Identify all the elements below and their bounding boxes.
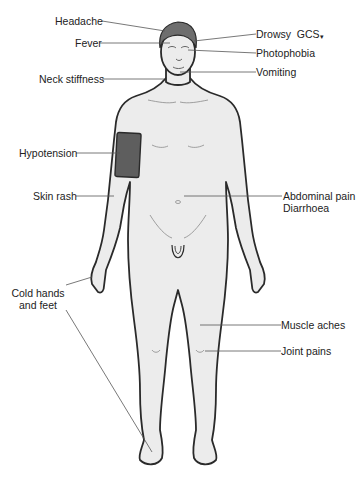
human-body-outline bbox=[91, 29, 265, 464]
blood-pressure-cuff bbox=[115, 132, 141, 177]
label-cold-hands-line1: Cold hands bbox=[10, 287, 66, 299]
label-fever: Fever bbox=[75, 37, 102, 49]
label-headache: Headache bbox=[55, 15, 103, 27]
label-drowsy: Drowsy bbox=[256, 28, 291, 40]
label-photophobia: Photophobia bbox=[256, 47, 315, 59]
label-gcs: GCS bbox=[297, 28, 320, 40]
label-skin-rash: Skin rash bbox=[33, 190, 77, 202]
label-muscle-aches: Muscle aches bbox=[281, 319, 345, 331]
label-cold-hands-line2: and feet bbox=[10, 299, 66, 311]
label-abdominal-pain: Abdominal pain bbox=[283, 190, 355, 202]
label-vomiting: Vomiting bbox=[256, 66, 296, 78]
label-abdominal-pain-diarrhoea: Abdominal pain Diarrhoea bbox=[283, 190, 355, 214]
down-arrow-icon: ▾ bbox=[320, 33, 324, 40]
label-cold-hands-and-feet: Cold hands and feet bbox=[10, 287, 66, 311]
label-drowsy-gcs: Drowsy GCS▾ bbox=[256, 28, 324, 43]
label-joint-pains: Joint pains bbox=[281, 345, 331, 357]
label-neck-stiffness: Neck stiffness bbox=[39, 73, 104, 85]
label-diarrhoea: Diarrhoea bbox=[283, 202, 355, 214]
label-hypotension: Hypotension bbox=[19, 147, 77, 159]
